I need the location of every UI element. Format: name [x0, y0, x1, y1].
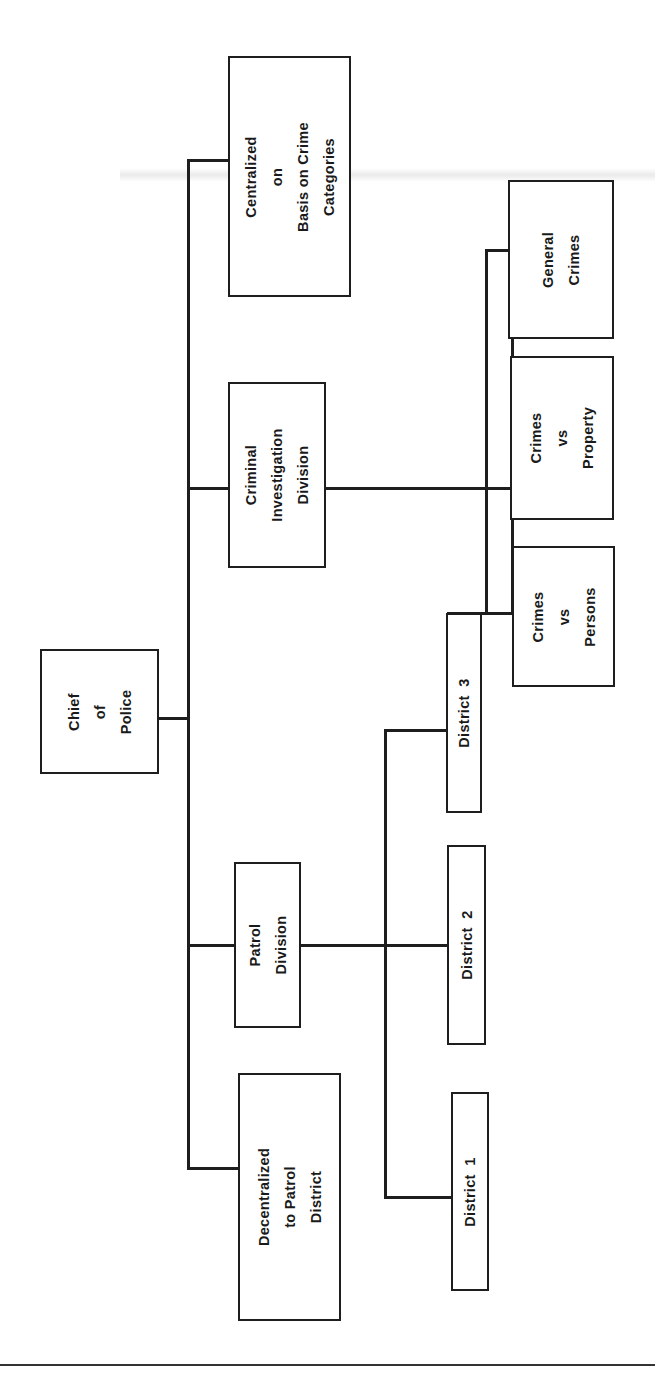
connector-decentralized	[187, 1167, 239, 1170]
connector-district3	[384, 729, 448, 732]
node-label: District 1	[457, 1157, 483, 1226]
node-label: District 2	[454, 910, 480, 979]
node-label: Chief of Police	[61, 689, 139, 734]
node-label: Decentralized to Patrol District	[251, 1148, 329, 1246]
node-criminal-investigation-division: Criminal Investigation Division	[228, 382, 326, 568]
node-crimes-vs-persons: Crimes vs Persons	[512, 546, 615, 687]
node-district-2: District 2	[447, 845, 486, 1045]
node-label: District 3	[451, 678, 477, 747]
connector-cid	[187, 487, 229, 490]
connector-crimes-persons	[486, 612, 514, 615]
node-chief-of-police: Chief of Police	[40, 649, 159, 774]
page-bottom-rule	[0, 1364, 655, 1366]
node-general-crimes: General Crimes	[508, 180, 614, 339]
node-label: Centralized on Basis on Crime Categories	[238, 122, 342, 232]
node-decentralized: Decentralized to Patrol District	[238, 1073, 341, 1321]
node-label: General Crimes	[535, 231, 587, 287]
node-centralized: Centralized on Basis on Crime Categories	[228, 56, 351, 297]
connector-centralized	[187, 159, 229, 162]
district-subspine	[384, 729, 387, 1198]
node-label: Crimes vs Property	[523, 407, 601, 469]
connector-chief-to-spine	[157, 717, 189, 720]
node-district-1: District 1	[451, 1092, 489, 1291]
cid-inner-spine	[485, 249, 488, 614]
connector-district1	[384, 1196, 452, 1199]
node-crimes-vs-property: Crimes vs Property	[510, 356, 614, 520]
connector-patrol	[187, 944, 235, 947]
node-district-3: District 3	[446, 613, 482, 813]
node-label: Crimes vs Persons	[525, 587, 603, 646]
main-spine	[187, 159, 190, 1169]
node-label: Criminal Investigation Division	[238, 428, 316, 521]
connector-general-crimes	[486, 249, 510, 252]
connector-cid-to-subspine	[324, 487, 512, 490]
node-label: Patrol Division	[242, 916, 294, 975]
connector-patrol-to-districts	[299, 944, 449, 947]
node-patrol-division: Patrol Division	[234, 862, 301, 1028]
